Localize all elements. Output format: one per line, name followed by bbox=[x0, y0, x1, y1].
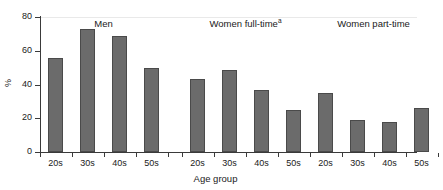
x-tick bbox=[246, 153, 247, 157]
bar bbox=[286, 110, 301, 152]
bar bbox=[382, 122, 397, 152]
x-tick bbox=[168, 153, 169, 157]
y-tick bbox=[35, 85, 40, 86]
x-tick bbox=[40, 153, 41, 157]
y-tick-label: 40 bbox=[8, 79, 32, 89]
x-tick bbox=[342, 153, 343, 157]
x-tick-label: 20s bbox=[311, 158, 341, 168]
x-tick bbox=[310, 153, 311, 157]
y-tick bbox=[35, 51, 40, 52]
group-label: Men bbox=[34, 18, 174, 29]
y-tick-label: 60 bbox=[8, 45, 32, 55]
group-label-text: Women full-time bbox=[209, 18, 277, 29]
bar bbox=[112, 36, 127, 152]
bar bbox=[48, 58, 63, 153]
x-tick-label: 50s bbox=[137, 158, 167, 168]
x-tick bbox=[406, 153, 407, 157]
x-tick bbox=[136, 153, 137, 157]
group-label: Women full-timea bbox=[176, 18, 316, 29]
x-tick bbox=[278, 153, 279, 157]
x-tick-label: 20s bbox=[41, 158, 71, 168]
x-tick-label: 40s bbox=[247, 158, 277, 168]
x-tick-label: 20s bbox=[183, 158, 213, 168]
bar bbox=[318, 93, 333, 152]
x-axis-line bbox=[40, 152, 417, 153]
x-tick bbox=[72, 153, 73, 157]
x-tick bbox=[104, 153, 105, 157]
x-tick-label: 30s bbox=[73, 158, 103, 168]
y-tick-label: 20 bbox=[8, 112, 32, 122]
y-axis-line bbox=[40, 16, 41, 153]
group-label-footnote-marker: a bbox=[278, 17, 282, 24]
bar bbox=[80, 29, 95, 152]
x-tick bbox=[438, 153, 439, 157]
x-tick-label: 40s bbox=[375, 158, 405, 168]
bar bbox=[254, 90, 269, 152]
group-label-text: Women part-time bbox=[337, 18, 410, 29]
x-tick-label: 40s bbox=[105, 158, 135, 168]
y-tick-label: 0 bbox=[8, 146, 32, 156]
group-label-text: Men bbox=[94, 18, 112, 29]
x-tick bbox=[374, 153, 375, 157]
y-tick-label: 80 bbox=[8, 11, 32, 21]
x-tick bbox=[214, 153, 215, 157]
x-tick-label: 50s bbox=[279, 158, 309, 168]
x-tick-label: 30s bbox=[215, 158, 245, 168]
x-tick-label: 50s bbox=[407, 158, 437, 168]
bar bbox=[222, 70, 237, 152]
x-tick bbox=[182, 153, 183, 157]
y-tick bbox=[35, 118, 40, 119]
bar bbox=[190, 79, 205, 152]
group-label: Women part-time bbox=[304, 18, 443, 29]
x-tick-label: 30s bbox=[343, 158, 373, 168]
x-axis-title: Age group bbox=[0, 173, 431, 184]
bar bbox=[144, 68, 159, 152]
bar bbox=[350, 120, 365, 152]
bar bbox=[414, 108, 429, 152]
